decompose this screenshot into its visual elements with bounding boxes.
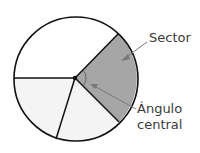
- central-angle-label-line2: central: [137, 117, 182, 132]
- center-point: [73, 76, 78, 81]
- central-angle-label-line1: Ángulo: [137, 101, 182, 116]
- sector-label: Sector: [149, 30, 191, 45]
